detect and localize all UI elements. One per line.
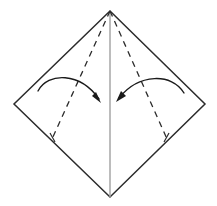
- origami-diagram-canvas: [0, 0, 217, 206]
- origami-figure-svg: [0, 0, 217, 206]
